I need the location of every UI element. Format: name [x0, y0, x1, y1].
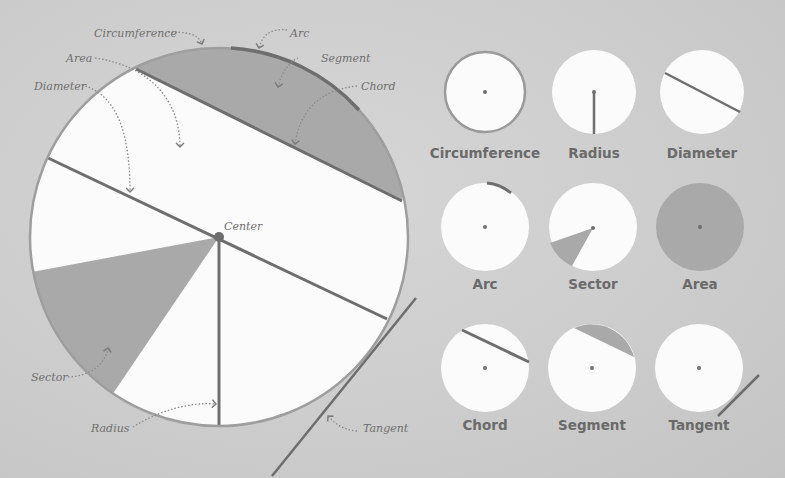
callout-diameter: Diameter: [33, 80, 87, 93]
thumbnail-segment: Segment: [548, 324, 636, 433]
svg-text:Area: Area: [682, 276, 717, 292]
main-circle: [30, 0, 430, 476]
callout-arc: Arc: [289, 27, 309, 40]
svg-text:Radius: Radius: [568, 145, 619, 161]
thumbnail-chord: Chord: [441, 324, 529, 433]
callout-segment: Segment: [321, 52, 371, 65]
svg-text:Tangent: Tangent: [668, 417, 730, 433]
callout-sector: Sector: [31, 371, 68, 384]
svg-text:Chord: Chord: [462, 417, 507, 433]
svg-text:Diameter: Diameter: [667, 145, 738, 161]
callout-tangent: Tangent: [363, 422, 409, 435]
center-point: [214, 232, 224, 242]
callout-radius: Radius: [90, 422, 130, 435]
svg-text:Sector: Sector: [568, 276, 618, 292]
callout-chord: Chord: [361, 80, 395, 93]
thumbnail-arc: Arc: [441, 183, 529, 292]
callout-circumference: Circumference: [94, 27, 177, 40]
thumbnail-diameter: Diameter: [660, 50, 744, 161]
svg-text:Segment: Segment: [558, 417, 626, 433]
diagram-canvas: Circumference Arc Area Segment Diameter …: [0, 0, 785, 478]
circle-parts-diagram: Circumference Arc Area Segment Diameter …: [0, 0, 785, 478]
callout-center: Center: [224, 220, 263, 233]
thumbnail-tangent: Tangent: [655, 324, 759, 433]
svg-text:Arc: Arc: [472, 276, 497, 292]
thumbnail-sector: Sector: [549, 183, 637, 292]
thumbnail-circumference: Circumference: [430, 52, 541, 161]
svg-text:Circumference: Circumference: [430, 145, 541, 161]
thumbnail-radius: Radius: [552, 50, 636, 161]
callout-area: Area: [65, 52, 92, 65]
thumbnail-area: Area: [656, 183, 744, 292]
